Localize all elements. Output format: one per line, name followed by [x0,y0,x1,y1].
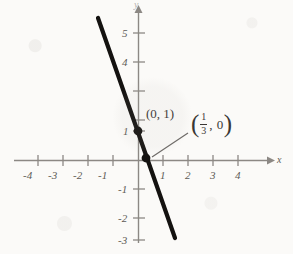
y-tick-label-1: 1 [123,126,129,137]
y-tick-label-neg3: -3 [118,235,127,246]
x-axis-label: x [277,155,281,165]
x-intercept-label: ( 1 3 , 0 ) [191,112,232,136]
y-tick-label-neg2: -2 [118,213,127,224]
x-tick-label-neg4: -4 [23,170,32,181]
y-tick-label-4: 4 [122,57,128,68]
x-tick-label-4: 4 [235,170,241,181]
fraction-denominator: 3 [200,126,207,137]
x-tick-label-neg1: -1 [98,170,107,181]
fraction-numerator: 1 [200,112,207,123]
x-tick-label-3: 3 [210,170,216,181]
y-tick-label-5: 5 [122,28,128,39]
coordinate-plot [0,0,293,254]
x-intercept-y-value: , 0 [208,118,224,131]
y-axis-label: y [134,0,138,10]
x-tick-label-neg2: -2 [73,170,82,181]
x-intercept-open-paren: ( [191,113,199,134]
point-x-intercept [142,154,151,163]
x-tick-label-1: 1 [160,170,166,181]
graph-figure: -4 -3 -2 -1 1 2 3 4 5 4 1 -1 -2 -3 x y (… [0,0,293,254]
y-tick-label-neg1: -1 [118,184,127,195]
leader-line [152,133,188,157]
x-tick-label-neg3: -3 [48,170,57,181]
point-y-intercept [134,127,143,136]
x-intercept-close-paren: ) [224,113,232,134]
y-intercept-label: (0, 1) [146,107,174,120]
x-tick-label-2: 2 [185,170,191,181]
x-intercept-fraction: 1 3 [200,112,207,136]
